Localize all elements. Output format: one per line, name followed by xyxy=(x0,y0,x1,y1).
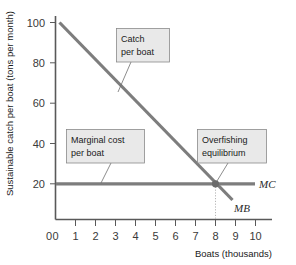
marginal-cost-line1: Marginal cost xyxy=(71,135,125,145)
y-tick-label-80: 80 xyxy=(33,57,45,69)
overfishing-equilibrium-line1: Overfishing xyxy=(202,135,248,145)
overfishing-equilibrium-leader xyxy=(217,163,228,181)
x-tick-label-5: 5 xyxy=(152,230,158,242)
y-axis-tick-labels: 100 80 60 40 20 0 xyxy=(27,17,52,243)
x-tick-label-2: 2 xyxy=(92,230,98,242)
x-axis-title: Boats (thousands) xyxy=(195,248,272,259)
x-tick-label-4: 4 xyxy=(132,230,138,242)
marginal-cost-leader xyxy=(101,163,111,183)
chart-container: Sustainable catch per boat (tons per mon… xyxy=(0,0,296,265)
overfishing-equilibrium-line2: equilibrium xyxy=(202,148,246,158)
equilibrium-point-marker xyxy=(212,180,219,187)
sustainable-catch-chart: Sustainable catch per boat (tons per mon… xyxy=(0,0,296,265)
annotation-marginal-cost-per-boat: Marginal cost per boat xyxy=(67,130,145,184)
y-tick-label-40: 40 xyxy=(33,138,45,150)
annotation-catch-per-boat: Catch per boat xyxy=(117,29,170,93)
y-tick-label-0: 0 xyxy=(46,230,52,242)
catch-per-boat-line2: per boat xyxy=(121,47,155,57)
mc-curve-label: MC xyxy=(258,178,276,190)
marginal-cost-line2: per boat xyxy=(71,148,105,158)
x-tick-label-6: 6 xyxy=(172,230,178,242)
y-axis-ticks xyxy=(50,23,55,184)
y-tick-label-60: 60 xyxy=(33,97,45,109)
catch-per-boat-line1: Catch xyxy=(121,34,145,44)
mb-curve-label: MB xyxy=(233,202,250,214)
y-tick-label-20: 20 xyxy=(33,178,45,190)
x-tick-label-9: 9 xyxy=(232,230,238,242)
x-tick-label-3: 3 xyxy=(112,230,118,242)
x-tick-label-10: 10 xyxy=(249,230,261,242)
y-tick-label-100: 100 xyxy=(27,17,45,29)
x-tick-label-7: 7 xyxy=(192,230,198,242)
x-tick-label-8: 8 xyxy=(212,230,218,242)
x-tick-label-0: 0 xyxy=(52,230,58,242)
x-tick-label-1: 1 xyxy=(72,230,78,242)
y-axis-title: Sustainable catch per boat (tons per mon… xyxy=(4,11,15,196)
x-axis-ticks xyxy=(76,220,256,227)
x-axis-tick-labels: 0 1 2 3 4 5 6 7 8 9 10 xyxy=(52,230,261,242)
